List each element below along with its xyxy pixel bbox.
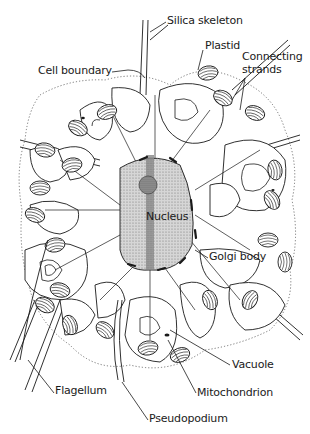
label-cell-boundary: Cell boundary xyxy=(38,65,112,77)
label-pseudopodium: Pseudopodium xyxy=(149,413,228,425)
label-connecting-strands-line2: strands xyxy=(242,64,282,76)
label-vacuole: Vacuole xyxy=(232,359,274,371)
label-nucleus: Nucleus xyxy=(146,211,188,223)
label-mitochondrion: Mitochondrion xyxy=(197,387,273,399)
label-silica-skeleton: Silica skeleton xyxy=(167,15,243,27)
label-golgi-body: Golgi body xyxy=(209,251,266,263)
label-plastid: Plastid xyxy=(205,40,240,52)
label-connecting-strands-line1: Connecting xyxy=(242,51,303,63)
label-flagellum: Flagellum xyxy=(55,385,107,397)
cell-diagram: Silica skeleton Plastid Connecting stran… xyxy=(0,0,310,434)
